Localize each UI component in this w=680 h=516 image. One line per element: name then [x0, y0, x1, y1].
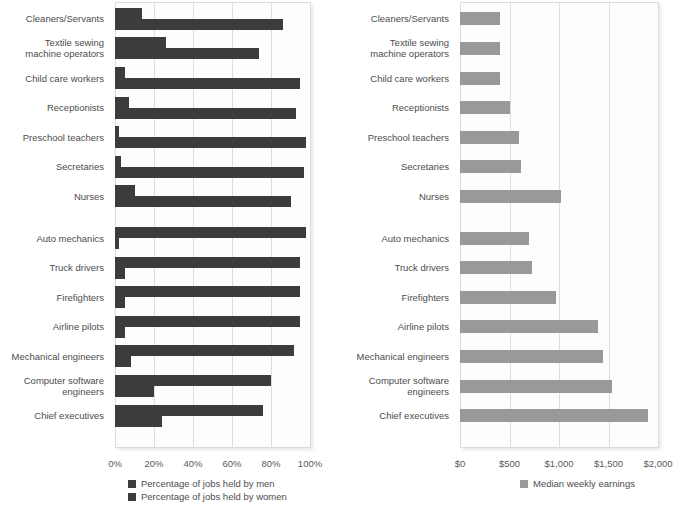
bar: [115, 156, 121, 167]
median-earnings-chart: Cleaners/ServantsTextile sewing machine …: [340, 0, 680, 440]
category-label: Child care workers: [340, 73, 455, 84]
legend-label-earnings: Median weekly earnings: [533, 478, 635, 489]
category-label: Mechanical engineers: [340, 351, 455, 362]
category-label: Firefighters: [0, 292, 110, 303]
bar: [115, 327, 125, 338]
bar: [115, 126, 119, 137]
right-chart-x-axis-ticks: $0$500$1,000$1,500$2,000: [340, 458, 680, 472]
bar: [115, 97, 129, 108]
bar: [460, 320, 598, 333]
category-label: Mechanical engineers: [0, 351, 110, 362]
axis-tick-label: $1,000: [544, 458, 573, 469]
plot-bottom-border: [460, 447, 658, 448]
bar: [115, 257, 300, 268]
legend-item-earnings: Median weekly earnings: [520, 478, 635, 489]
legend-label-women: Percentage of jobs held by women: [141, 491, 287, 502]
bar: [115, 137, 306, 148]
axis-tick-label: $1,500: [594, 458, 623, 469]
gridline: [658, 2, 659, 448]
category-label: Cleaners/Servants: [0, 13, 110, 24]
bar: [115, 416, 162, 427]
bar: [115, 268, 125, 279]
plot-bottom-border: [115, 447, 310, 448]
bar: [115, 405, 263, 416]
category-label: Truck drivers: [340, 262, 455, 273]
bar: [460, 232, 529, 245]
category-label: Firefighters: [340, 292, 455, 303]
bar: [115, 8, 142, 19]
axis-tick-label: $2,000: [643, 458, 672, 469]
category-label: Secretaries: [0, 161, 110, 172]
left-chart-x-axis-ticks: 0%20%40%60%80%100%: [0, 458, 340, 472]
category-label: Chief executives: [0, 410, 110, 421]
bar: [115, 345, 294, 356]
bar: [460, 12, 500, 25]
bar: [115, 185, 135, 196]
bar: [115, 356, 131, 367]
bar: [115, 78, 300, 89]
plot-top-border: [460, 2, 658, 3]
right-chart-legend: Median weekly earnings: [520, 478, 635, 491]
legend-item-men: Percentage of jobs held by men: [128, 478, 287, 489]
gender-share-chart: Cleaners/ServantsTextile sewing machine …: [0, 0, 340, 440]
axis-tick-label: 60%: [222, 458, 241, 469]
bar: [115, 316, 300, 327]
axis-tick-label: $0: [455, 458, 466, 469]
category-label: Textile sewing machine operators: [340, 37, 455, 59]
legend-label-men: Percentage of jobs held by men: [141, 478, 275, 489]
legend-swatch-men-icon: [128, 480, 136, 488]
bar: [460, 350, 603, 363]
category-label: Cleaners/Servants: [340, 13, 455, 24]
legend-swatch-earnings-icon: [520, 480, 528, 488]
category-label: Nurses: [340, 191, 455, 202]
category-label: Nurses: [0, 191, 110, 202]
left-chart-legend: Percentage of jobs held by men Percentag…: [128, 478, 287, 504]
category-label: Truck drivers: [0, 262, 110, 273]
legend-item-women: Percentage of jobs held by women: [128, 491, 287, 502]
category-label: Textile sewing machine operators: [0, 37, 110, 59]
bar: [460, 131, 519, 144]
bar: [460, 42, 500, 55]
plot-top-border: [115, 2, 310, 3]
gridline: [310, 2, 311, 448]
left-chart-panel: Cleaners/ServantsTextile sewing machine …: [0, 0, 340, 516]
bar: [115, 297, 125, 308]
category-label: Airline pilots: [0, 321, 110, 332]
bar: [460, 190, 561, 203]
category-label: Auto mechanics: [340, 233, 455, 244]
bar: [115, 386, 154, 397]
axis-tick-label: 20%: [144, 458, 163, 469]
bar: [115, 19, 283, 30]
category-label: Computer software engineers: [340, 375, 455, 397]
bar: [115, 167, 304, 178]
category-label: Secretaries: [340, 161, 455, 172]
bar: [115, 286, 300, 297]
category-label: Child care workers: [0, 73, 110, 84]
category-label: Receptionists: [340, 102, 455, 113]
bar: [115, 227, 306, 238]
bar: [460, 72, 500, 85]
category-label: Computer software engineers: [0, 375, 110, 397]
gridline: [271, 2, 272, 448]
bar: [460, 380, 612, 393]
category-label: Preschool teachers: [0, 132, 110, 143]
category-label: Receptionists: [0, 102, 110, 113]
bar: [115, 48, 259, 59]
bar: [460, 261, 532, 274]
category-label: Auto mechanics: [0, 233, 110, 244]
axis-tick-label: $500: [499, 458, 520, 469]
bar: [115, 37, 166, 48]
bar: [115, 67, 125, 78]
category-label: Airline pilots: [340, 321, 455, 332]
category-label: Preschool teachers: [340, 132, 455, 143]
bar: [115, 375, 271, 386]
bar: [460, 409, 648, 422]
axis-tick-label: 0%: [108, 458, 122, 469]
axis-tick-label: 100%: [298, 458, 322, 469]
axis-tick-label: 80%: [261, 458, 280, 469]
bar: [115, 108, 296, 119]
bar: [115, 196, 291, 207]
axis-tick-label: 40%: [183, 458, 202, 469]
legend-swatch-women-icon: [128, 493, 136, 501]
right-chart-panel: Cleaners/ServantsTextile sewing machine …: [340, 0, 680, 516]
